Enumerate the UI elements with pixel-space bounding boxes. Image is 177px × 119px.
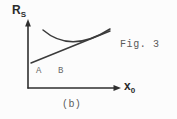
x-axis-label: x0 bbox=[124, 80, 135, 95]
y-axis-symbol: R bbox=[12, 3, 21, 17]
region-label-a: A bbox=[36, 67, 41, 76]
panel-caption: (b) bbox=[62, 99, 81, 110]
figure-number-label: Fig. 3 bbox=[120, 39, 160, 50]
y-axis bbox=[25, 19, 31, 88]
x-axis-subscript: 0 bbox=[131, 86, 135, 95]
x-axis bbox=[28, 85, 121, 91]
y-axis-subscript: S bbox=[21, 10, 26, 19]
x-axis-symbol: x bbox=[124, 79, 131, 93]
figure-panel-b: RS x0 A B Fig. 3 (b) bbox=[0, 0, 177, 119]
region-label-b: B bbox=[58, 67, 63, 76]
curve-descending-line bbox=[31, 31, 110, 63]
plot-canvas bbox=[0, 0, 177, 119]
y-axis-label: RS bbox=[12, 4, 26, 19]
